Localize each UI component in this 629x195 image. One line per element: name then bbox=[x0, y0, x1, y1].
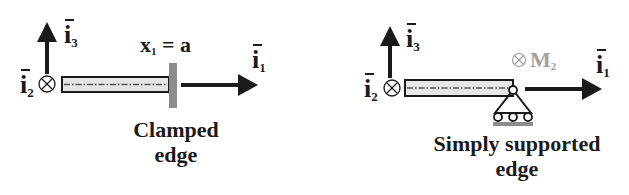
beam-icon bbox=[62, 77, 169, 92]
beam-icon bbox=[405, 80, 513, 96]
i1-axis-arrow-icon bbox=[181, 74, 258, 96]
position-label: x1 = a bbox=[140, 34, 191, 56]
clamped-edge-caption: Clamped edge bbox=[118, 117, 234, 168]
i1-axis-arrow-icon bbox=[525, 78, 602, 100]
i2-axis-label: i2 bbox=[20, 72, 34, 98]
i2-into-page-icon bbox=[384, 80, 400, 96]
moment-into-page-icon bbox=[513, 54, 526, 67]
simply-supported-edge-diagram: i3 i2 i1 M2 Simply supported edge bbox=[320, 0, 629, 195]
moment-label: M2 bbox=[530, 49, 556, 71]
i2-axis-label: i2 bbox=[364, 76, 378, 102]
clamped-edge-diagram: i3 i2 i1 x1 = a Clamped edge bbox=[0, 0, 320, 195]
i3-axis-label: i3 bbox=[406, 26, 420, 52]
i3-axis-label: i3 bbox=[64, 22, 78, 48]
i2-into-page-icon bbox=[39, 76, 55, 92]
i1-axis-label: i1 bbox=[252, 47, 266, 73]
clamp-support-icon bbox=[169, 63, 177, 108]
i1-axis-label: i1 bbox=[596, 52, 610, 78]
simply-supported-edge-caption: Simply supported edge bbox=[420, 131, 614, 182]
i3-axis-arrow-icon bbox=[380, 26, 400, 78]
i3-axis-arrow-icon bbox=[37, 22, 57, 74]
